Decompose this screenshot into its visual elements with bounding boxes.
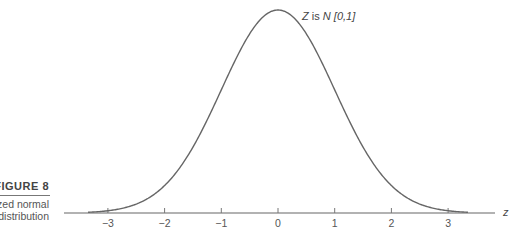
distribution-annotation: Z is N [0,1] <box>301 10 356 22</box>
x-tick-label: 1 <box>332 217 338 229</box>
x-tick-label: −3 <box>102 217 114 229</box>
x-axis-ticks: −3−2−10123 <box>102 208 451 229</box>
x-tick-label: 2 <box>388 217 394 229</box>
normal-distribution-chart: −3−2−10123 z Z is N [0,1] <box>0 0 517 239</box>
normal-curve <box>88 10 468 212</box>
x-tick-label: −2 <box>159 217 171 229</box>
x-tick-label: 0 <box>275 217 281 229</box>
x-tick-label: 3 <box>445 217 451 229</box>
x-axis-label: z <box>502 206 509 218</box>
x-tick-label: −1 <box>215 217 227 229</box>
